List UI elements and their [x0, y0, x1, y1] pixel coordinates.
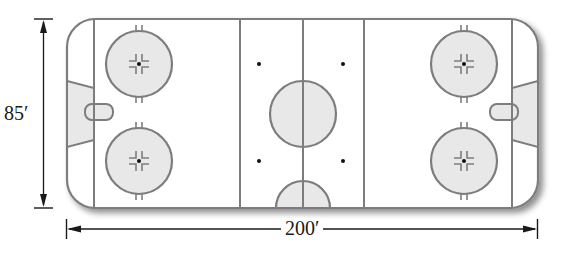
faceoff-dot [462, 62, 466, 66]
left-net [85, 104, 113, 120]
width-label: 200′ [281, 218, 323, 238]
hockey-rink-diagram: 85′ 200′ [0, 0, 568, 255]
neutral-dot [341, 159, 345, 163]
faceoff-dot [137, 62, 141, 66]
faceoff-dot [462, 159, 466, 163]
rink-svg [0, 0, 568, 255]
faceoff-dot [137, 159, 141, 163]
right-net [490, 104, 518, 120]
neutral-dot [257, 62, 261, 66]
neutral-dot [257, 159, 261, 163]
height-label: 85′ [4, 101, 28, 125]
neutral-dot [341, 62, 345, 66]
height-dimension [34, 19, 53, 208]
